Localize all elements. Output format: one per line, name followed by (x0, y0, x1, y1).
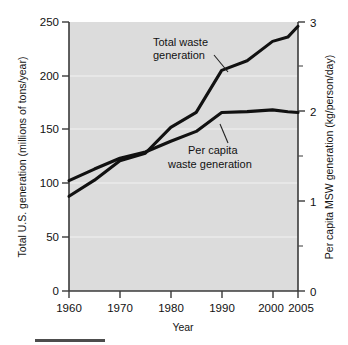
x-axis-title: Year (172, 321, 194, 333)
line-chart: 250 200 150 100 50 0 3 2 1 0 1960 1970 1… (0, 0, 348, 345)
x-tick-label-1970: 1970 (107, 302, 133, 314)
x-tick-label-2005: 2005 (288, 302, 314, 314)
x-tick-label-1980: 1980 (158, 302, 184, 314)
x-tick-label-1990: 1990 (209, 302, 235, 314)
y-tick-label-250: 250 (40, 16, 59, 28)
annotation-per-capita-line1: Per capita (188, 144, 238, 156)
y2-tick-label-0: 0 (310, 286, 316, 298)
footer-rule (35, 339, 105, 342)
y-tick-label-200: 200 (40, 70, 59, 82)
y-tick-label-50: 50 (46, 231, 59, 243)
plot-area-background (69, 22, 298, 291)
y2-tick-label-3: 3 (310, 17, 316, 29)
y2-axis-title: Per capita MSW generation (kg/person/day… (323, 55, 335, 259)
y2-tick-label-1: 1 (310, 196, 316, 208)
annotation-total-waste-line1: Total waste (153, 36, 208, 48)
annotation-per-capita-line2: waste generation (167, 158, 252, 170)
y-tick-label-150: 150 (40, 123, 59, 135)
annotation-total-waste-line2: generation (153, 49, 205, 61)
chart-figure: 250 200 150 100 50 0 3 2 1 0 1960 1970 1… (0, 0, 348, 345)
x-tick-label-2000: 2000 (258, 302, 284, 314)
x-tick-label-1960: 1960 (56, 302, 82, 314)
y-tick-label-100: 100 (40, 177, 59, 189)
y2-tick-label-2: 2 (310, 106, 316, 118)
y-tick-label-0: 0 (53, 285, 59, 297)
y-axis-title: Total U.S. generation (millions of tons/… (16, 57, 28, 258)
